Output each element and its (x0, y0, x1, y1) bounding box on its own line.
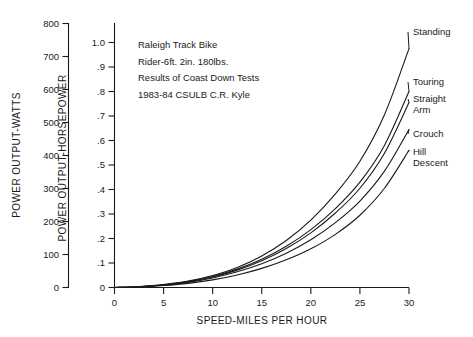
speed-axis-title: SPEED-MILES PER HOUR (197, 315, 328, 326)
horsepower-axis-title: POWER OUTPUT-HORSEPOWER (57, 75, 68, 242)
series-label: Standing (413, 26, 451, 37)
series-label: Hill (413, 146, 426, 157)
horsepower-tick-label: .1 (97, 257, 105, 268)
series-leader-line (408, 32, 409, 49)
watts-tick-label: 0 (54, 282, 59, 293)
horsepower-tick-label: .6 (97, 135, 105, 146)
horsepower-tick-label: .7 (97, 110, 105, 121)
series-curve (115, 150, 410, 287)
speed-axis: 051015202530 SPEED-MILES PER HOUR (112, 288, 414, 327)
watts-tick-label: 100 (43, 249, 59, 260)
watts-tick-label: 800 (43, 18, 59, 29)
horsepower-tick-group: 0.1.2.3.4.5.6.7.8.91.0 (92, 37, 115, 293)
horsepower-tick-label: .3 (97, 208, 105, 219)
speed-tick-label: 30 (404, 297, 415, 308)
series-leader-line (408, 150, 409, 152)
chart-canvas: 0100200300400500600700800 POWER OUTPUT-W… (0, 0, 473, 337)
horsepower-tick-label: .2 (97, 233, 105, 244)
watts-tick-label: 700 (43, 51, 59, 62)
speed-tick-label: 25 (355, 297, 366, 308)
horsepower-tick-label: .8 (97, 86, 105, 97)
annotation-line: Results of Coast Down Tests (138, 72, 260, 83)
horsepower-tick-label: .9 (97, 61, 105, 72)
speed-tick-label: 0 (112, 297, 117, 308)
watts-axis-title: POWER OUTPUT-WATTS (11, 92, 22, 218)
series-label: Arm (413, 104, 431, 115)
horsepower-tick-label: .5 (97, 159, 105, 170)
series-label-group: StandingTouringStraightArmCrouchHillDesc… (408, 26, 451, 168)
series-label: Straight (413, 93, 446, 104)
series-label: Descent (413, 157, 448, 168)
chart-annotation: Raleigh Track BikeRider-6ft. 2in. 180lbs… (138, 39, 260, 100)
horsepower-tick-label: .4 (97, 184, 105, 195)
horsepower-axis: 0.1.2.3.4.5.6.7.8.91.0 POWER OUTPUT-HORS… (57, 23, 115, 293)
series-leader-line (408, 82, 409, 92)
annotation-line: Raleigh Track Bike (138, 39, 217, 50)
speed-tick-label: 5 (161, 297, 166, 308)
series-curve (115, 92, 410, 288)
power-output-vs-speed-chart: 0100200300400500600700800 POWER OUTPUT-W… (0, 0, 473, 337)
horsepower-tick-label: 0 (100, 282, 105, 293)
annotation-line: Rider-6ft. 2in. 180lbs. (138, 56, 228, 67)
series-leader-line (408, 99, 409, 103)
curve-group (115, 49, 410, 288)
series-label: Crouch (413, 128, 444, 139)
speed-tick-label: 10 (207, 297, 218, 308)
annotation-line: 1983-84 CSULB C.R. Kyle (138, 89, 250, 100)
speed-tick-group: 051015202530 (112, 288, 414, 309)
series-curve (115, 49, 410, 288)
series-label: Touring (413, 76, 444, 87)
speed-tick-label: 15 (256, 297, 267, 308)
horsepower-tick-label: 1.0 (92, 37, 105, 48)
speed-tick-label: 20 (306, 297, 317, 308)
